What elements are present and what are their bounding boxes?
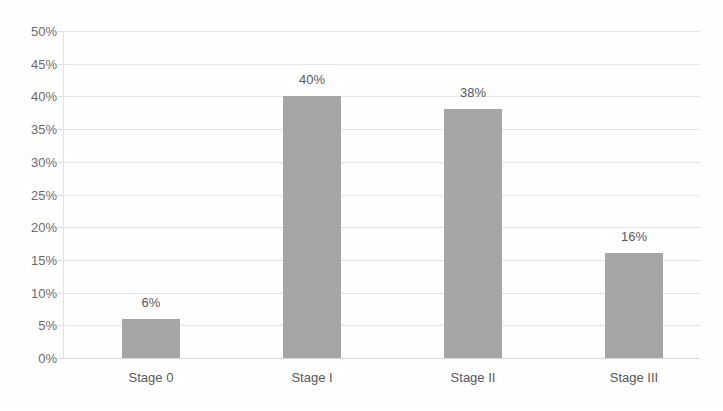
gridline (63, 195, 700, 196)
y-tick-label: 25% (5, 188, 57, 201)
y-tick-label: 45% (5, 57, 57, 70)
x-axis-baseline (63, 358, 700, 359)
y-tick-label: 0% (5, 352, 57, 365)
x-tick-label-stage-iii: Stage III (575, 371, 693, 384)
bar-stage-i[interactable] (283, 96, 341, 358)
gridline (63, 96, 700, 97)
y-tick-label: 10% (5, 286, 57, 299)
gridline (63, 64, 700, 65)
bar-chart: 50% 45% 40% 35% 30% 25% 20% 15% 10% 5% 0… (0, 0, 723, 411)
y-tick-label: 30% (5, 155, 57, 168)
y-tick-label: 15% (5, 253, 57, 266)
gridline (63, 129, 700, 130)
y-tick-label: 5% (5, 319, 57, 332)
x-tick-label-stage-i: Stage I (253, 371, 371, 384)
bar-value-label-stage-i: 40% (283, 73, 341, 86)
y-tick-label: 20% (5, 221, 57, 234)
chart-title (0, 0, 723, 3)
gridline (63, 31, 700, 32)
x-tick-label-stage-ii: Stage II (414, 371, 532, 384)
bar-value-label-stage-iii: 16% (605, 230, 663, 243)
gridline (63, 162, 700, 163)
y-tick-label: 35% (5, 123, 57, 136)
bar-value-label-stage-ii: 38% (444, 86, 502, 99)
bar-stage-iii[interactable] (605, 253, 663, 358)
x-tick-label-stage-0: Stage 0 (92, 371, 210, 384)
bar-stage-0[interactable] (122, 319, 180, 358)
y-axis-tick-labels: 50% 45% 40% 35% 30% 25% 20% 15% 10% 5% 0… (0, 0, 57, 411)
bar-value-label-stage-0: 6% (122, 296, 180, 309)
gridline (63, 227, 700, 228)
y-tick-label: 50% (5, 25, 57, 38)
y-tick-label: 40% (5, 90, 57, 103)
bar-stage-ii[interactable] (444, 109, 502, 358)
